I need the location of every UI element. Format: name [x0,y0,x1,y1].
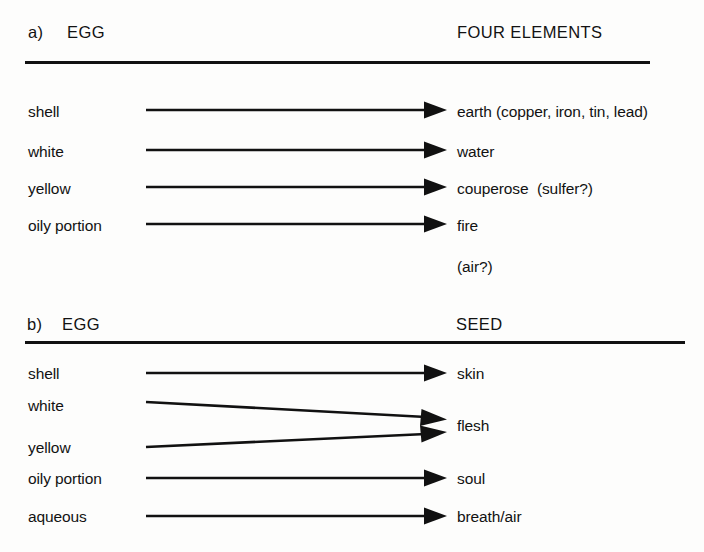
panel-b-row12-right: flesh [457,418,489,434]
panel-b-left-heading: EGG [62,316,100,333]
panel-b-row3-left: oily portion [28,471,102,487]
panel-b-arrow-oily-portion [146,470,447,487]
panel-b-arrow-white [146,402,447,426]
panel-b-arrow-aqueous [146,508,447,525]
panel-a-arrow-yellow [146,179,447,196]
panel-b-row4-right: breath/air [457,509,521,525]
panel-a-right-heading: FOUR ELEMENTS [457,24,602,41]
panel-a-arrow-shell [146,102,447,119]
panel-b-arrow-yellow [146,426,447,448]
panel-a-row3-right: fire [457,218,478,234]
panel-b-arrow-shell [146,365,447,382]
panel-a-row0-right: earth (copper, iron, tin, lead) [457,104,648,120]
panel-a-row1-right: water [457,144,494,160]
panel-b-right-heading: SEED [456,316,503,333]
panel-b-row0-right: skin [457,366,484,382]
panel-b-row3-right: soul [457,471,485,487]
panel-b-row0-left: shell [28,366,59,382]
panel-b-tag: b) [27,316,42,333]
figure-canvas: a) EGG FOUR ELEMENTS shell earth (copper… [0,0,704,552]
panel-b-header-rule [25,341,685,344]
panel-b-row4-left: aqueous [28,509,87,525]
arrow-layer [0,0,704,552]
panel-a-header-rule [25,61,650,64]
panel-a-row2-left: yellow [28,181,70,197]
panel-a-arrow-oily-portion [146,216,447,233]
panel-b-row1-left: white [28,398,64,414]
panel-a-tag: a) [28,24,43,41]
panel-a-row0-left: shell [28,104,59,120]
panel-a-row4-right: (air?) [457,259,493,275]
panel-a-arrow-white [146,142,447,159]
panel-a-row2-right: couperose (sulfer?) [457,181,593,197]
panel-a-row1-left: white [28,144,64,160]
panel-a-left-heading: EGG [67,24,105,41]
panel-b-row2-left: yellow [28,440,70,456]
panel-a-row3-left: oily portion [28,218,102,234]
